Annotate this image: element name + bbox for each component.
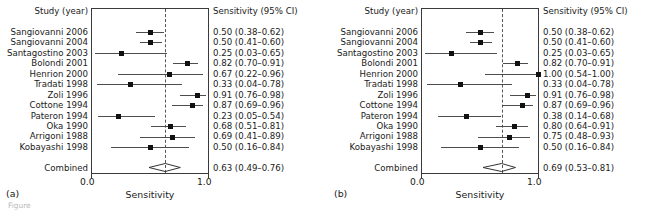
confidence-interval-line — [98, 116, 155, 117]
study-value: 0.50 (0.41–0.60) — [213, 37, 319, 47]
point-estimate-marker — [148, 40, 153, 45]
point-estimate-marker — [512, 124, 517, 129]
study-value: 0.50 (0.16–0.84) — [543, 142, 649, 152]
point-estimate-marker — [536, 72, 541, 77]
confidence-interval-line — [510, 95, 536, 96]
point-estimate-marker — [167, 72, 172, 77]
point-estimate-marker — [507, 135, 512, 140]
spacer — [334, 16, 418, 27]
panel-b-tick-label-1: 1.0 — [527, 177, 542, 187]
point-estimate-marker — [119, 51, 124, 56]
spacer — [4, 152, 88, 163]
study-value: 0.87 (0.69–0.96) — [543, 100, 649, 110]
panel-a-value-list: 0.50 (0.38–0.62)0.50 (0.41–0.60)0.25 (0.… — [213, 27, 319, 152]
panel-a: Study (year) Sangiovanni 2006Sangiovanni… — [0, 0, 327, 210]
study-value: 0.69 (0.41–0.89) — [213, 131, 319, 141]
study-label: Santagostino 2003 — [334, 48, 418, 58]
study-value: 0.33 (0.04–0.78) — [213, 79, 319, 89]
study-label: Pateron 1994 — [4, 111, 88, 121]
confidence-interval-line — [485, 74, 538, 75]
confidence-interval-line — [180, 95, 206, 96]
point-estimate-marker — [515, 61, 520, 66]
study-label: Arrigoni 1988 — [334, 131, 418, 141]
study-label: Henrion 2000 — [4, 69, 88, 79]
confidence-interval-line — [95, 53, 167, 54]
panel-b-combined-label: Combined — [334, 163, 418, 173]
panel-b-plot-area — [421, 8, 539, 174]
point-estimate-marker — [458, 82, 463, 87]
panel-b-value-header: Sensitivity (95% CI) — [543, 6, 649, 16]
study-value: 0.33 (0.04–0.78) — [543, 79, 649, 89]
study-label: Tradati 1998 — [334, 79, 418, 89]
point-estimate-marker — [190, 103, 195, 108]
confidence-interval-line — [438, 116, 501, 117]
confidence-interval-line — [172, 105, 203, 106]
study-value: 1.00 (0.54–1.00) — [543, 69, 649, 79]
panel-a-axis-title: Sensitivity — [110, 189, 190, 200]
point-estimate-marker — [525, 93, 530, 98]
point-estimate-marker — [478, 30, 483, 35]
study-label: Sangiovanni 2006 — [334, 27, 418, 37]
point-estimate-marker — [449, 51, 454, 56]
forest-plot-figure: Study (year) Sangiovanni 2006Sangiovanni… — [0, 0, 655, 210]
panel-b-value-list: 0.50 (0.38–0.62)0.50 (0.41–0.60)0.25 (0.… — [543, 27, 649, 152]
confidence-interval-line — [502, 105, 533, 106]
panel-b-tick-label-0: 0.0 — [410, 177, 425, 187]
point-estimate-marker — [520, 103, 525, 108]
point-estimate-marker — [195, 93, 200, 98]
panel-a-tick-label-1: 1.0 — [197, 177, 212, 187]
study-label: Bolondi 2001 — [4, 58, 88, 68]
reference-line — [502, 9, 503, 173]
panel-a-study-labels: Sangiovanni 2006Sangiovanni 2004Santagos… — [4, 27, 88, 152]
confidence-interval-line — [97, 84, 183, 85]
study-label: Bolondi 2001 — [334, 58, 418, 68]
confidence-interval-line — [118, 74, 204, 75]
panel-b-plot-inner — [422, 9, 538, 173]
panel-a-value-column: Sensitivity (95% CI) 0.50 (0.38–0.62)0.5… — [213, 6, 319, 173]
reference-line — [165, 9, 166, 173]
study-value: 0.50 (0.38–0.62) — [543, 27, 649, 37]
study-label: Henrion 2000 — [334, 69, 418, 79]
panel-a-study-header: Study (year) — [4, 6, 88, 16]
panel-b: Study (year) Sangiovanni 2006Sangiovanni… — [328, 0, 655, 210]
panel-a-study-column: Study (year) Sangiovanni 2006Sangiovanni… — [4, 6, 88, 173]
study-value: 0.50 (0.16–0.84) — [213, 142, 319, 152]
study-value: 0.75 (0.48–0.93) — [543, 131, 649, 141]
panel-a-tag: (a) — [6, 188, 19, 199]
panel-b-tag: (b) — [334, 188, 347, 199]
panel-a-tick-label-0: 0.0 — [80, 177, 95, 187]
study-label: Cottone 1994 — [334, 100, 418, 110]
spacer — [213, 152, 319, 163]
panel-a-plot-area — [91, 8, 209, 174]
confidence-interval-line — [427, 84, 513, 85]
study-value: 0.87 (0.69–0.96) — [213, 100, 319, 110]
point-estimate-marker — [478, 145, 483, 150]
study-label: Santagostino 2003 — [4, 48, 88, 58]
study-label: Zoli 1996 — [334, 90, 418, 100]
combined-effect-diamond — [482, 162, 516, 173]
study-label: Sangiovanni 2004 — [334, 37, 418, 47]
point-estimate-marker — [116, 114, 121, 119]
study-value: 0.68 (0.51–0.81) — [213, 121, 319, 131]
panel-b-combined-value: 0.69 (0.53–0.81) — [543, 163, 649, 173]
point-estimate-marker — [148, 145, 153, 150]
study-value: 0.25 (0.03–0.65) — [213, 48, 319, 58]
study-label: Zoli 1996 — [4, 90, 88, 100]
study-label: Oka 1990 — [4, 121, 88, 131]
panel-a-plot-inner — [92, 9, 208, 173]
point-estimate-marker — [170, 135, 175, 140]
study-label: Oka 1990 — [334, 121, 418, 131]
figure-caption: Figure — [8, 202, 648, 210]
point-estimate-marker — [464, 114, 469, 119]
study-label: Cottone 1994 — [4, 100, 88, 110]
confidence-interval-line — [140, 137, 196, 138]
study-label: Arrigoni 1988 — [4, 131, 88, 141]
spacer — [543, 16, 649, 27]
study-label: Sangiovanni 2004 — [4, 37, 88, 47]
spacer — [4, 16, 88, 27]
panel-a-combined-label: Combined — [4, 163, 88, 173]
study-label: Sangiovanni 2006 — [4, 27, 88, 37]
spacer — [213, 16, 319, 27]
study-value: 0.67 (0.22–0.96) — [213, 69, 319, 79]
panel-b-study-labels: Sangiovanni 2006Sangiovanni 2004Santagos… — [334, 27, 418, 152]
